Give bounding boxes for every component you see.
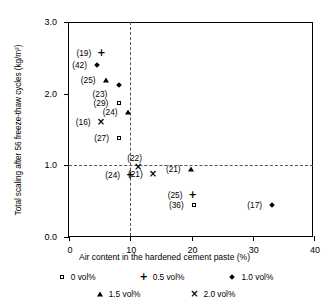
legend-label: 1.0 vol% [241,272,273,282]
legend-item[interactable]: 1.5 vol% [94,289,141,299]
y-tick-label: 3.0 [44,17,57,27]
marker-plus-icon: + [139,272,147,282]
x-tick: 20 [192,236,193,241]
legend-item[interactable]: +0.5 vol% [138,272,185,282]
data-point-label: (17) [247,201,262,209]
data-point-label: (21) [166,165,181,173]
marker-square-icon [117,101,121,105]
marker-diamond-icon [230,274,236,280]
legend-label: 2.0 vol% [204,289,236,299]
legend-label: 0 vol% [71,272,96,282]
marker-plus-icon: + [97,48,105,58]
legend-label: 0.5 vol% [153,272,185,282]
marker-diamond-icon [270,203,276,209]
legend-item[interactable]: ×2.0 vol% [189,289,236,299]
data-point-label: (29) [94,99,109,107]
legend-item[interactable]: 0 vol% [56,272,96,282]
data-point-label: (21) [128,170,143,178]
reference-line-vertical [130,22,131,236]
y-axis-title: Total scaling after 56 freeze-thaw cycle… [13,19,23,241]
marker-square-icon [60,275,64,279]
legend-marker [226,272,238,282]
marker-triangle-icon [125,110,131,115]
marker-diamond-icon [116,82,122,88]
marker-triangle-icon [188,166,194,171]
marker-triangle-icon [103,78,109,83]
data-point-label: (24) [105,171,120,179]
data-point-label: (16) [76,118,91,126]
legend-marker [94,289,106,299]
plot-area: 0.01.02.03.0 010203040 (29)(27)(36)+(19)… [68,22,313,237]
marker-square-icon [117,136,121,140]
data-point-label: (19) [76,49,91,57]
marker-ex-icon: × [149,169,157,179]
plot-frame-top [69,22,313,23]
x-tick: 0 [69,236,70,241]
legend-row: 1.5 vol%×2.0 vol% [0,285,329,302]
chart-legend: 0 vol%+0.5 vol%1.0 vol%1.5 vol%×2.0 vol% [0,268,329,302]
legend-marker: + [138,272,150,282]
legend-label: 1.5 vol% [109,289,141,299]
x-tick: 30 [253,236,254,241]
y-tick-label: 0.0 [44,232,57,242]
data-point-label: (27) [94,134,109,142]
marker-triangle-icon [97,291,103,296]
marker-ex-icon: × [97,117,105,127]
data-point-label: (24) [103,108,118,116]
y-tick: 3.0 [64,22,69,23]
y-tick: 2.0 [64,94,69,95]
data-point-label: (25) [81,76,96,84]
x-tick: 10 [130,236,131,241]
data-point-label: (42) [72,61,87,69]
legend-row: 0 vol%+0.5 vol%1.0 vol% [0,268,329,285]
legend-marker: × [189,289,201,299]
legend-marker [56,272,68,282]
marker-plus-icon: + [189,190,197,200]
plot-frame-right [312,22,313,236]
x-tick: 40 [314,236,315,241]
marker-diamond-icon [94,62,100,68]
marker-ex-icon: × [190,289,198,299]
data-point-label: (22) [127,154,142,162]
scatter-chart-figure: Total scaling after 56 freeze-thaw cycle… [0,0,329,307]
data-point-label: (25) [168,191,183,199]
x-axis-title: Air content in the hardened cement paste… [0,252,329,262]
data-point-label: (23) [93,90,108,98]
data-point-label: (36) [169,201,184,209]
y-tick-label: 1.0 [44,160,57,170]
marker-square-icon [192,203,196,207]
y-tick-label: 2.0 [44,89,57,99]
legend-item[interactable]: 1.0 vol% [226,272,273,282]
